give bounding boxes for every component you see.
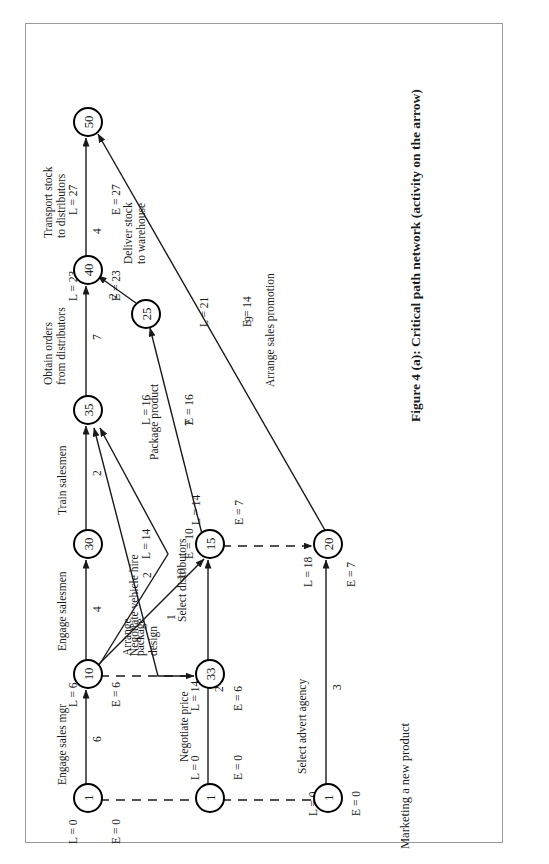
activity-label-arrange-sales-promotion: Arrange sales promotion xyxy=(264,273,277,387)
activity-duration-transport-stock-to-distributors: 4 xyxy=(92,228,104,234)
node-label: 40 xyxy=(82,264,95,276)
node-15-E: E = 7 xyxy=(232,495,246,525)
activity-label-train-salesmen: Train salesmen xyxy=(56,445,69,515)
node-start1[interactable]: 1 xyxy=(73,783,103,813)
node-label: 33 xyxy=(204,668,217,680)
page-frame: Figure 4 (a): Critical path network (act… xyxy=(25,23,503,843)
node-33[interactable]: 33 xyxy=(195,659,225,689)
network-diagram: 1 1 1 10 33 30 35 15 20 25 40 50 xyxy=(26,24,502,842)
node-20[interactable]: 20 xyxy=(313,529,343,559)
node-label: 1 xyxy=(204,795,217,801)
node-25-L: L = 21 xyxy=(197,296,211,327)
activity-label-select-distributors: Select distributors xyxy=(176,539,189,622)
activity-label-package-product: Package product xyxy=(148,384,161,460)
node-10[interactable]: 10 xyxy=(73,659,103,689)
activity-label-arrange-package-design-visible: Arrange package design xyxy=(121,618,160,656)
node-35[interactable]: 35 xyxy=(73,395,103,425)
activity-label-negotiate-price: Negotiate price xyxy=(178,691,191,762)
node-15-L: L = 14 xyxy=(189,495,203,525)
node-label: 15 xyxy=(204,538,217,550)
activity-duration-obtain-orders-from-distributors: 7 xyxy=(92,334,104,340)
activity-label-obtain-orders-from-distributors: Obtain orders from distributors xyxy=(42,307,68,385)
node-start2[interactable]: 1 xyxy=(195,783,225,813)
node-label: 50 xyxy=(82,116,95,128)
activity-label-transport-stock-to-distributors: Transport stock to distributors xyxy=(42,167,68,238)
node-30[interactable]: 30 xyxy=(73,529,103,559)
activity-duration-select-distributors: 10 xyxy=(176,569,188,581)
node-25-E: E = 14 xyxy=(240,296,254,327)
activity-duration-deliver-stock-to-warehouse: 2 xyxy=(108,293,120,299)
node-10-E: E = 6 xyxy=(109,682,123,707)
node-start1-L: L = 0 xyxy=(66,819,80,844)
node-25[interactable]: 25 xyxy=(131,299,161,329)
node-label: 1 xyxy=(82,795,95,801)
node-label: 10 xyxy=(82,668,95,680)
node-start1-E: E = 0 xyxy=(109,819,123,844)
document-page: Figure 4 (a): Critical path network (act… xyxy=(0,0,549,864)
diagram-edges xyxy=(26,24,502,842)
node-label: 20 xyxy=(322,538,335,550)
node-20-times: L = 18 E = 7 xyxy=(272,557,387,587)
node-15-times: L = 14 E = 7 xyxy=(160,495,275,525)
node-start2-E: E = 0 xyxy=(231,755,245,780)
activity-duration-arrange-sales-promotion: 9 xyxy=(244,316,256,322)
activity-label-engage-sales-mgr: Engage sales mgr xyxy=(56,704,69,785)
node-40[interactable]: 40 xyxy=(73,255,103,285)
activity-label-select-advert-agency: Select advert agency xyxy=(296,679,309,774)
node-start1-times: L = 0 E = 0 xyxy=(37,819,152,844)
node-50[interactable]: 50 xyxy=(73,107,103,137)
node-50-L: L = 27 xyxy=(66,184,80,215)
node-33-E: E = 6 xyxy=(231,681,245,711)
node-30-L: L = 14 xyxy=(139,528,153,559)
node-35-times: L = 16 E = 16 xyxy=(110,394,225,425)
node-20-E: E = 7 xyxy=(344,557,358,587)
activity-duration-engage-sales-mgr: 6 xyxy=(92,736,104,742)
activity-duration-select-advert-agency: 3 xyxy=(332,684,344,690)
node-label: 25 xyxy=(140,308,153,320)
activity-duration-train-salesmen: 2 xyxy=(92,470,104,476)
node-label: 30 xyxy=(82,538,95,550)
activity-duration-engage-salesmen: 4 xyxy=(92,606,104,612)
node-20-L: L = 18 xyxy=(301,557,315,587)
node-15[interactable]: 15 xyxy=(195,529,225,559)
node-label: 1 xyxy=(322,795,335,801)
activity-label-deliver-stock-to-warehouse: Deliver stock to warehouse xyxy=(122,202,148,264)
node-start2-times: L = 0 E = 0 xyxy=(159,755,274,780)
activity-duration-package-product: 7 xyxy=(184,420,196,426)
node-start3[interactable]: 1 xyxy=(313,783,343,813)
diagram-title: Marketing a new product xyxy=(398,723,412,849)
activity-label-engage-salesmen: Engage salesmen xyxy=(56,571,69,651)
node-start3-E: E = 0 xyxy=(349,791,363,816)
activity-duration-arrange-package-design: 1 xyxy=(166,614,178,620)
node-label: 35 xyxy=(82,404,95,416)
activity-duration-negotiate-vehicle-hire: 2 xyxy=(142,572,154,578)
